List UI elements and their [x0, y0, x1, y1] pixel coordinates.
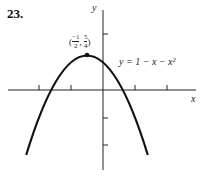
- y-axis-label: y: [92, 2, 96, 13]
- vertex-x-numerator: −1: [72, 33, 79, 42]
- x-axis-label: x: [191, 93, 195, 104]
- equation-label: y = 1 − x − x²: [119, 56, 176, 67]
- vertex-x-denominator: 2: [74, 42, 78, 50]
- vertex-label: ( −1 2 , 5 4 ): [69, 33, 90, 50]
- parabola-graph: [0, 0, 203, 177]
- parabola-curve: [26, 56, 148, 156]
- vertex-point: [85, 53, 90, 58]
